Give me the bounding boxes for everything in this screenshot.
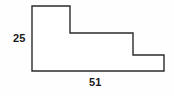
width-dimension-label: 51 xyxy=(89,77,102,88)
height-dimension-label: 25 xyxy=(13,33,26,44)
staircase-polygon-outline xyxy=(32,6,164,71)
figure-screenshot: 25 51 xyxy=(0,0,174,96)
staircase-polygon-figure xyxy=(0,0,174,96)
